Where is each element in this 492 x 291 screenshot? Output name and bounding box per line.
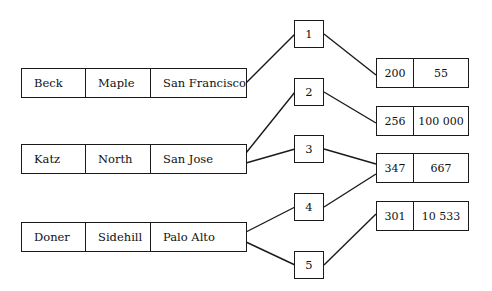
record-city: San Jose (150, 145, 246, 173)
record-katz: Katz North San Jose (21, 144, 247, 174)
link-node-2: 2 (294, 78, 324, 106)
record-200: 200 55 (376, 58, 469, 88)
record-id: 200 (377, 59, 413, 87)
record-value: 667 (413, 154, 468, 182)
connector-doner-5 (246, 242, 295, 265)
record-id: 256 (377, 107, 413, 135)
record-city: San Francisco (150, 69, 246, 97)
connector-5-301 (324, 214, 376, 265)
record-doner: Doner Sidehill Palo Alto (21, 222, 247, 252)
record-name: Katz (22, 145, 85, 173)
connector-katz-3 (246, 149, 295, 163)
connector-4-347 (324, 174, 376, 207)
record-value: 100 000 (413, 107, 468, 135)
record-301: 301 10 533 (376, 201, 469, 231)
connector-3-347 (324, 149, 376, 164)
connector-1-200 (324, 34, 376, 75)
link-node-4: 4 (294, 193, 324, 221)
connector-2-256 (324, 92, 376, 123)
link-node-1: 1 (294, 20, 324, 48)
record-value: 55 (413, 59, 468, 87)
record-name: Beck (22, 69, 85, 97)
record-347: 347 667 (376, 153, 469, 183)
link-node-5: 5 (294, 251, 324, 279)
connector-katz-2 (246, 92, 295, 153)
record-id: 347 (377, 154, 413, 182)
record-value: 10 533 (413, 202, 468, 230)
record-street: Maple (85, 69, 150, 97)
record-street: Sidehill (85, 223, 150, 251)
connector-doner-4 (246, 207, 295, 232)
record-256: 256 100 000 (376, 106, 469, 136)
record-id: 301 (377, 202, 413, 230)
link-node-3: 3 (294, 135, 324, 163)
record-beck: Beck Maple San Francisco (21, 68, 247, 98)
record-street: North (85, 145, 150, 173)
record-name: Doner (22, 223, 85, 251)
record-city: Palo Alto (150, 223, 246, 251)
connector-beck-1 (246, 34, 295, 83)
